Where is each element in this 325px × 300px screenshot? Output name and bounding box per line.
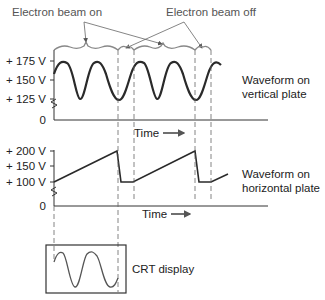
beam-brackets [54,42,211,50]
tick-175v: + 175 V [6,55,46,67]
vertical-caption-line2: vertical plate [242,88,307,100]
tick-100v: + 100 V [6,176,46,188]
vertical-time-label: Time [134,127,159,139]
tick-0: 0 [40,114,46,126]
tick-200v: + 200 V [6,145,46,157]
crt-label: CRT display [132,263,194,275]
tick-150v: + 150 V [6,74,46,86]
horizontal-time-label: Time [142,208,167,220]
horizontal-plate-plot: + 200 V + 150 V + 100 V 0 Time Waveform … [6,145,320,220]
axis-break-icon [51,99,57,108]
sawtooth-waveform [54,151,228,182]
beam-on-label: Electron beam on [12,6,102,18]
callout-arrows [84,22,202,48]
horizontal-caption-line2: horizontal plate [242,182,320,194]
beam-off-label: Electron beam off [166,6,257,18]
vertical-plate-plot: + 175 V + 150 V + 125 V 0 Time Waveform … [6,50,310,139]
tick-0: 0 [40,200,46,212]
sine-waveform [54,62,221,100]
crt-display: CRT display [46,245,194,293]
tick-150v: + 150 V [6,160,46,172]
crt-sine-trace [54,252,118,287]
horizontal-caption-line1: Waveform on [242,168,310,180]
axis-break-icon [51,187,57,196]
oscilloscope-diagram: Electron beam on Electron beam off + 175… [0,0,325,300]
tick-125v: + 125 V [6,93,46,105]
vertical-caption-line1: Waveform on [242,74,310,86]
